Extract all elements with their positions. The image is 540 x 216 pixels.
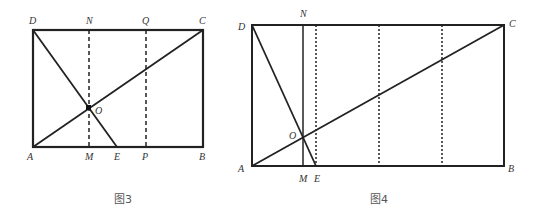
geometry-figures: D N Q C O A M E P B 图3 D N C O A B M E 图… [0, 0, 540, 216]
figure-4-labels: D N C O A B M E 图4 [237, 8, 516, 206]
label-e: E [113, 151, 120, 162]
label-b: B [199, 151, 205, 162]
label-c: C [199, 15, 206, 26]
figure-3-labels: D N Q C O A M E P B 图3 [26, 15, 206, 206]
label-o: O [289, 130, 296, 141]
segment-de [252, 25, 316, 166]
label-a: A [26, 151, 34, 162]
figure-3 [33, 30, 203, 147]
label-n: N [299, 8, 308, 19]
label-d: D [237, 21, 246, 32]
label-d: D [28, 15, 37, 26]
diagonal-ac [252, 25, 504, 166]
label-n: N [85, 15, 94, 26]
figure-4 [252, 25, 504, 166]
label-e: E [313, 173, 320, 184]
caption-figure-3: 图3 [114, 193, 132, 206]
diagonal-ac [33, 30, 203, 147]
label-c: C [509, 18, 516, 29]
label-b: B [508, 163, 514, 174]
label-m: M [84, 151, 94, 162]
label-m: M [298, 173, 308, 184]
label-a: A [237, 163, 245, 174]
label-p: P [141, 151, 148, 162]
caption-figure-4: 图4 [370, 193, 388, 206]
segment-de [33, 30, 117, 147]
point-o-marker [86, 105, 91, 110]
label-o: O [95, 105, 102, 116]
label-q: Q [142, 15, 150, 26]
